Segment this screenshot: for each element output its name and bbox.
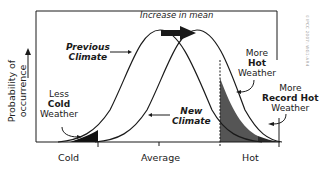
less-cold-label: Less Cold Weather bbox=[40, 89, 78, 119]
more-hot-shaded-area bbox=[220, 78, 258, 142]
record-hot-arrow-icon bbox=[268, 122, 274, 126]
previous-pointer-arrow-icon bbox=[128, 50, 132, 54]
credit-text: ©IPCC 2007: WG1-AR4 bbox=[305, 15, 310, 67]
increase-arrow-icon bbox=[161, 26, 196, 40]
x-category-hot: Hot bbox=[242, 153, 259, 163]
x-category-average: Average bbox=[141, 153, 180, 163]
less-cold-shaded-area bbox=[70, 130, 98, 142]
new-pointer-arrow-icon bbox=[148, 113, 152, 117]
x-category-cold: Cold bbox=[58, 153, 79, 163]
previous-climate-label: Previous Climate bbox=[66, 42, 110, 62]
new-climate-label: New Climate bbox=[172, 106, 211, 126]
more-hot-label: More Hot Weather bbox=[238, 48, 276, 78]
y-axis-label: Probability of occurrence bbox=[6, 36, 28, 146]
increase-in-mean-label: Increase in mean bbox=[140, 10, 213, 20]
less-cold-pointer bbox=[62, 127, 78, 137]
more-record-hot-label: More Record Hot Weather bbox=[262, 83, 319, 113]
more-hot-pointer bbox=[240, 80, 254, 92]
